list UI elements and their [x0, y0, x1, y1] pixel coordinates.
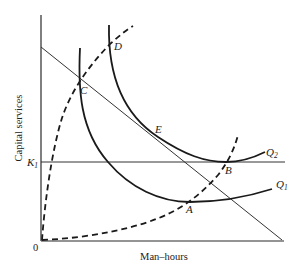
point-label-c: C: [80, 84, 88, 96]
isoquant-q2: [109, 25, 265, 162]
budget-line: [41, 47, 282, 240]
curve-label-q1: Q1: [276, 178, 288, 192]
isoquant-diagram: D C E B A Q2 Q1 K1 0 Man–hours Capital s…: [0, 0, 300, 272]
point-label-b: B: [225, 164, 232, 176]
k1-label: K1: [26, 156, 38, 170]
point-label-e: E: [154, 123, 162, 135]
point-label-d: D: [113, 40, 122, 52]
origin-label: 0: [33, 242, 38, 253]
x-axis-label: Man–hours: [140, 251, 188, 262]
y-axis-label: Capital services: [13, 95, 24, 162]
isoquant-q1: [79, 48, 272, 202]
expansion-path-shallow: [42, 135, 238, 240]
point-label-a: A: [185, 203, 193, 215]
diagram-canvas: D C E B A Q2 Q1 K1 0 Man–hours Capital s…: [0, 0, 300, 272]
curve-label-q2: Q2: [266, 146, 278, 160]
